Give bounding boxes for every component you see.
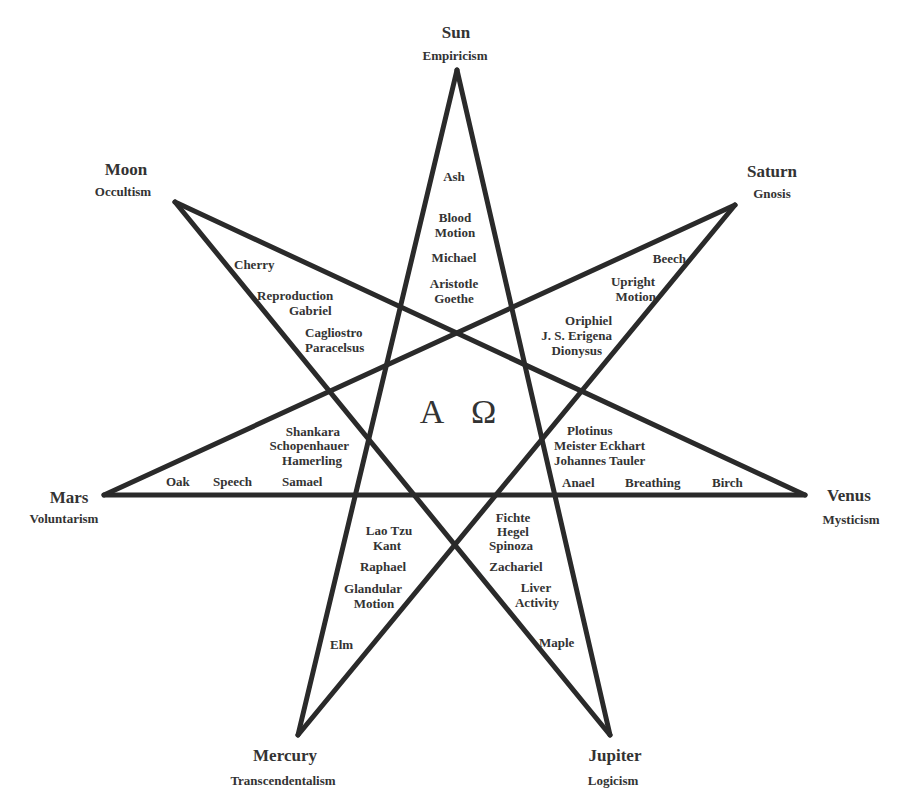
saturn-process-1: Upright bbox=[611, 274, 655, 289]
jupiter-tree: Maple bbox=[539, 635, 574, 650]
planet-label-saturn: Saturn bbox=[747, 163, 797, 180]
sun-thinker-1: Aristotle bbox=[430, 276, 478, 291]
sun-process-1: Blood bbox=[439, 210, 472, 225]
venus-thinker-3: Johannes Tauler bbox=[554, 453, 645, 468]
mercury-thinker-1: Lao Tzu bbox=[366, 523, 412, 538]
mercury-process-1: Glandular bbox=[344, 581, 402, 596]
school-label-mars: Voluntarism bbox=[30, 512, 99, 525]
mars-thinker-1: Shankara bbox=[286, 424, 340, 439]
sun-archangel: Michael bbox=[432, 250, 477, 265]
mars-tree: Oak bbox=[166, 474, 190, 489]
venus-archangel: Anael bbox=[562, 475, 595, 490]
venus-tree: Birch bbox=[712, 475, 743, 490]
mercury-archangel: Raphael bbox=[360, 559, 406, 574]
saturn-archangel: Oriphiel bbox=[565, 313, 612, 328]
saturn-thinker-1: J. S. Erigena bbox=[541, 328, 612, 343]
school-label-sun: Empiricism bbox=[423, 49, 488, 62]
mercury-tree: Elm bbox=[330, 637, 353, 652]
venus-thinker-1: Plotinus bbox=[567, 423, 613, 438]
moon-thinker-1: Cagliostro bbox=[305, 325, 363, 340]
sun-process-2: Motion bbox=[435, 225, 475, 240]
saturn-tree: Beech bbox=[653, 251, 686, 266]
moon-thinker-2: Paracelsus bbox=[305, 340, 364, 355]
venus-process: Breathing bbox=[625, 475, 680, 490]
school-label-saturn: Gnosis bbox=[753, 187, 791, 200]
mercury-process-2: Motion bbox=[354, 596, 394, 611]
mars-process: Speech bbox=[213, 474, 252, 489]
moon-process: Reproduction bbox=[257, 288, 333, 303]
planet-label-jupiter: Jupiter bbox=[589, 747, 642, 764]
planet-label-moon: Moon bbox=[105, 161, 148, 178]
sun-thinker-2: Goethe bbox=[434, 291, 474, 306]
mars-archangel: Samael bbox=[282, 474, 322, 489]
jupiter-thinker-1: Fichte bbox=[496, 510, 531, 525]
sun-tree: Ash bbox=[443, 169, 465, 184]
edge-jupiter-moon bbox=[175, 202, 610, 735]
mars-thinker-3: Hamerling bbox=[282, 453, 342, 468]
saturn-process-2: Motion bbox=[616, 289, 656, 304]
mars-thinker-2: Schopenhauer bbox=[270, 438, 349, 453]
school-label-mercury: Transcendentalism bbox=[230, 774, 335, 787]
saturn-thinker-2: Dionysus bbox=[551, 343, 602, 358]
jupiter-process-1: Liver bbox=[521, 580, 551, 595]
mercury-thinker-2: Kant bbox=[373, 538, 401, 553]
planet-label-venus: Venus bbox=[827, 487, 871, 504]
school-label-venus: Mysticism bbox=[822, 513, 879, 526]
planet-label-mars: Mars bbox=[50, 489, 89, 506]
jupiter-archangel: Zachariel bbox=[489, 559, 542, 574]
jupiter-thinker-2: Hegel bbox=[497, 524, 529, 539]
jupiter-process-2: Activity bbox=[515, 595, 559, 610]
school-label-moon: Occultism bbox=[95, 185, 151, 198]
school-label-jupiter: Logicism bbox=[588, 774, 639, 787]
jupiter-thinker-3: Spinoza bbox=[489, 538, 533, 553]
moon-archangel: Gabriel bbox=[289, 303, 332, 318]
moon-tree: Cherry bbox=[234, 257, 274, 272]
planet-label-mercury: Mercury bbox=[253, 747, 317, 764]
alpha-omega-symbol: A Ω bbox=[420, 395, 506, 429]
planet-label-sun: Sun bbox=[442, 24, 470, 41]
venus-thinker-2: Meister Eckhart bbox=[554, 438, 645, 453]
